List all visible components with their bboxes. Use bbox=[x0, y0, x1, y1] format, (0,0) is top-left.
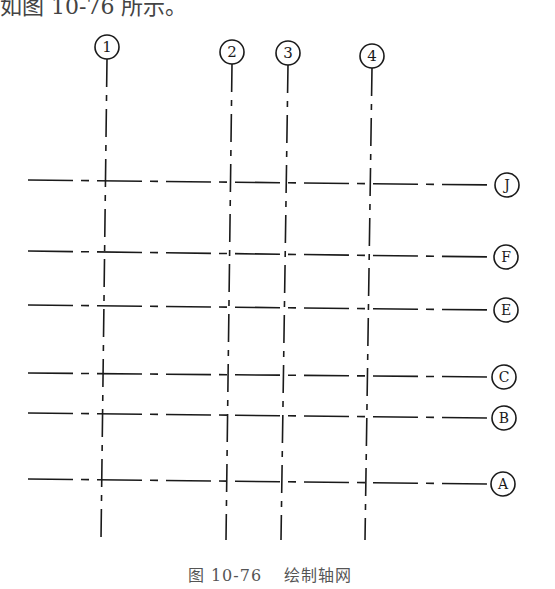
figure-caption: 图 10-76 绘制轴网 bbox=[0, 562, 540, 586]
vertical-axis-1: 1 bbox=[95, 35, 119, 540]
axis-label-2: 2 bbox=[227, 43, 237, 61]
horizontal-axis-J: J bbox=[28, 173, 519, 197]
horizontal-axis-B: B bbox=[28, 406, 516, 430]
figure-number: 图 10-76 bbox=[188, 566, 262, 585]
axis-label-B: B bbox=[499, 410, 509, 426]
vertical-axis-4: 4 bbox=[360, 44, 384, 540]
axis-label-1: 1 bbox=[102, 38, 112, 56]
axis-label-J: J bbox=[502, 177, 510, 193]
horizontal-axis-E: E bbox=[28, 298, 518, 322]
horizontal-axis-C: C bbox=[28, 365, 516, 389]
axis-grid-diagram: 1234JFECBA bbox=[0, 0, 555, 589]
axis-label-A: A bbox=[497, 476, 509, 492]
vertical-axis-2: 2 bbox=[220, 40, 244, 540]
axis-label-4: 4 bbox=[367, 47, 377, 65]
figure-title: 绘制轴网 bbox=[284, 566, 352, 585]
horizontal-axis-F: F bbox=[28, 245, 518, 269]
axis-label-3: 3 bbox=[283, 44, 293, 62]
axis-label-E: E bbox=[501, 302, 511, 318]
axis-label-C: C bbox=[499, 369, 510, 385]
vertical-axis-3: 3 bbox=[276, 41, 300, 540]
axis-label-F: F bbox=[501, 249, 511, 265]
